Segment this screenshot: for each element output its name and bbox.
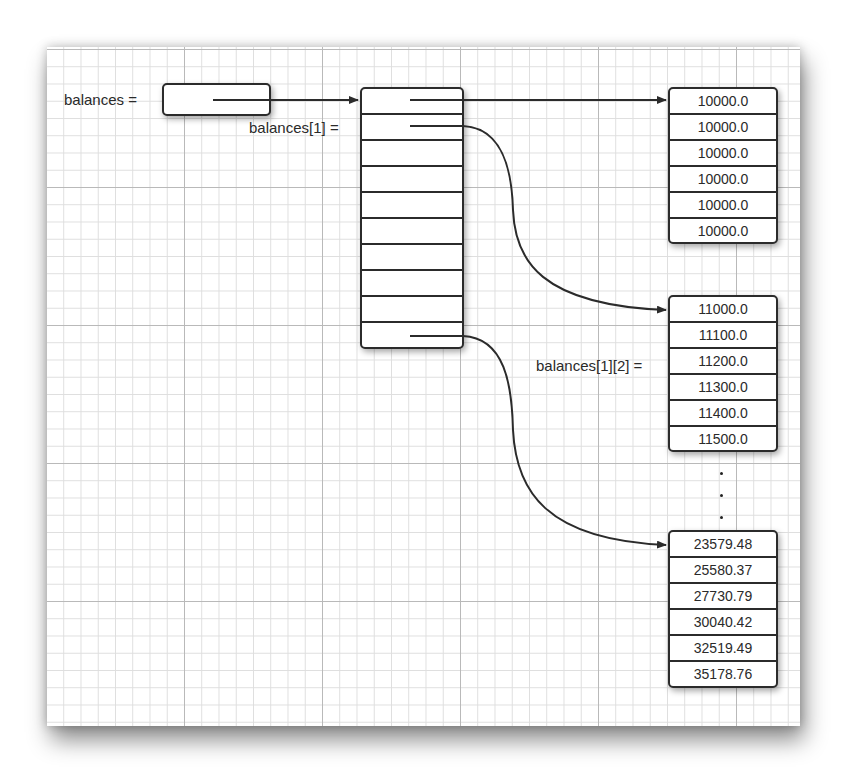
row-1-cell-highlighted: 11200.0 — [670, 349, 776, 375]
outer-array-slot-0 — [362, 89, 462, 115]
ellipsis-dot — [720, 494, 723, 497]
outer-array-slot-6 — [362, 245, 462, 271]
outer-array-slot-5 — [362, 219, 462, 245]
outer-array-slot-9 — [362, 323, 462, 349]
row-1-array: 11000.0 11100.0 11200.0 11300.0 11400.0 … — [668, 295, 778, 452]
row-0-cell: 10000.0 — [670, 219, 776, 244]
ellipsis-dot — [720, 516, 723, 519]
row-0-cell: 10000.0 — [670, 89, 776, 115]
row-1-cell: 11000.0 — [670, 297, 776, 323]
outer-array-slot-4 — [362, 193, 462, 219]
row-1-cell: 11300.0 — [670, 375, 776, 401]
outer-array-slot-3 — [362, 167, 462, 193]
row-9-cell: 27730.79 — [670, 584, 776, 610]
row-0-array: 10000.0 10000.0 10000.0 10000.0 10000.0 … — [668, 87, 778, 244]
row-9-cell: 32519.49 — [670, 636, 776, 662]
outer-array-slot-1 — [362, 115, 462, 141]
row-9-cell: 30040.42 — [670, 610, 776, 636]
row-1-cell: 11100.0 — [670, 323, 776, 349]
balances-label: balances = — [64, 91, 137, 109]
ellipsis-dot — [720, 472, 723, 475]
row-0-cell: 10000.0 — [670, 115, 776, 141]
outer-reference-array — [360, 87, 464, 349]
row-9-cell: 35178.76 — [670, 662, 776, 688]
row-0-cell: 10000.0 — [670, 193, 776, 219]
row-9-cell: 23579.48 — [670, 532, 776, 558]
row-0-cell: 10000.0 — [670, 141, 776, 167]
outer-array-slot-8 — [362, 297, 462, 323]
outer-array-slot-2 — [362, 141, 462, 167]
row-1-cell: 11500.0 — [670, 427, 776, 452]
balances-1-label: balances[1] = — [249, 119, 339, 137]
row-9-array: 23579.48 25580.37 27730.79 30040.42 3251… — [668, 530, 778, 688]
outer-array-slot-7 — [362, 271, 462, 297]
balances-variable-box — [162, 83, 271, 116]
balances-1-2-label: balances[1][2] = — [536, 357, 642, 375]
row-9-cell: 25580.37 — [670, 558, 776, 584]
row-0-cell: 10000.0 — [670, 167, 776, 193]
row-1-cell: 11400.0 — [670, 401, 776, 427]
